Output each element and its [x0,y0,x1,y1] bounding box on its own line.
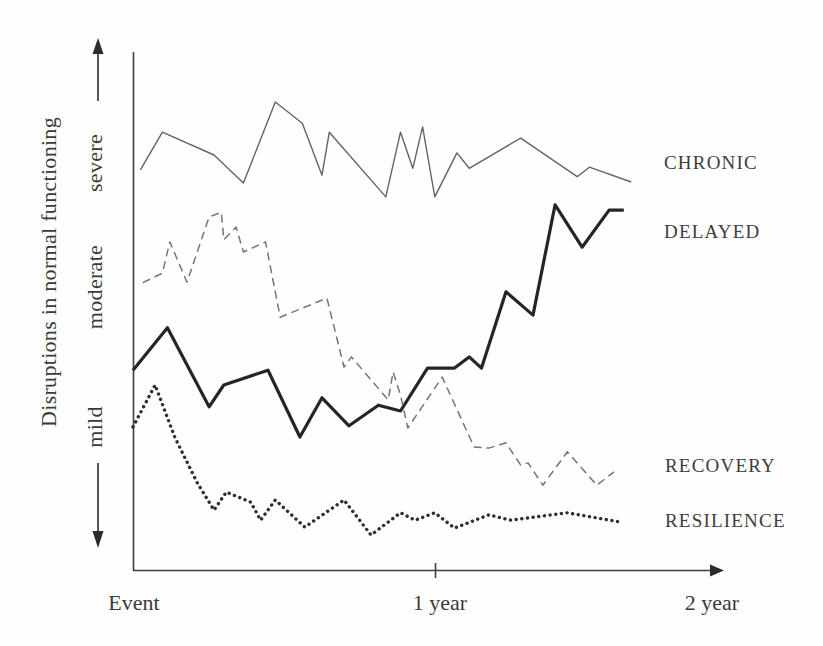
series-label-recovery: RECOVERY [665,455,776,477]
series-label-delayed: DELAYED [664,221,760,243]
y-tick-label-moderate: moderate [82,245,108,329]
series-label-chronic: CHRONIC [664,152,758,174]
y-axis-title: Disruptions in normal functioning [36,117,62,427]
y-arrow-up-head-icon [93,38,104,54]
y-tick-label-severe: severe [82,134,108,192]
chronic-line [140,102,631,197]
x-tick-label-2year: 2 year [685,590,739,616]
series-label-resilience: RESILIENCE [665,510,786,532]
recovery-line [143,212,614,485]
delayed-line [133,205,624,437]
x-axis-arrowhead-icon [710,565,724,577]
chart-canvas [0,0,823,646]
series-lines-group [133,102,631,535]
y-arrow-down-head-icon [93,531,104,548]
y-tick-label-mild: mild [82,406,108,448]
resilience-trajectories-figure: Disruptions in normal functioning severe… [0,0,823,646]
x-tick-label-1year: 1 year [413,590,467,616]
x-tick-label-event: Event [108,590,159,616]
